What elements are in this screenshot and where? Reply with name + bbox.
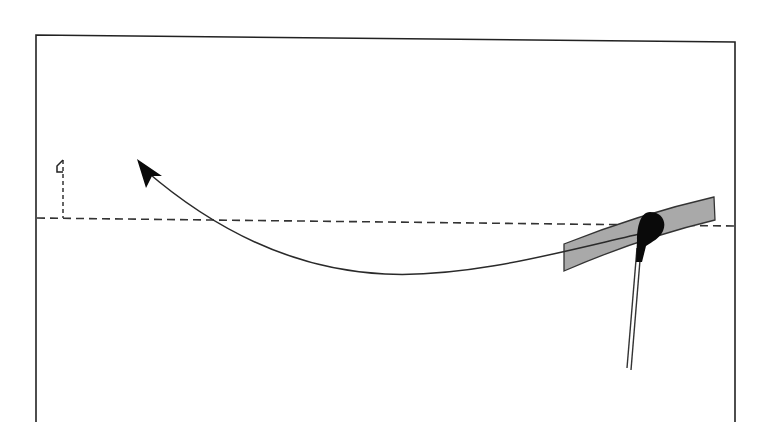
golf-flight-diagram [0, 0, 771, 422]
flag-icon [57, 160, 63, 218]
club-shaft [627, 248, 641, 370]
arrowhead-icon [137, 159, 162, 188]
